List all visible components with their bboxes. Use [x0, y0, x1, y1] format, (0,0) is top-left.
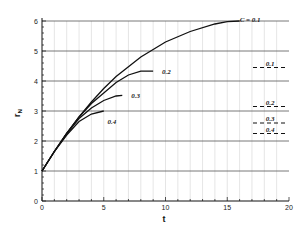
reference-label: 0.1	[266, 60, 275, 68]
series-label: 0.4	[107, 118, 116, 126]
x-tick-label: 15	[223, 204, 231, 211]
y-tick-label: 2	[34, 138, 38, 145]
y-tick-label: 6	[34, 18, 38, 25]
series-line	[42, 71, 153, 171]
reference-label: 0.2	[266, 99, 275, 107]
svg-text:rN: rN	[12, 109, 23, 117]
x-tick-label: 10	[162, 204, 170, 211]
y-axis-label: rN	[12, 109, 23, 117]
x-tick-label: 0	[40, 204, 44, 211]
series-line	[42, 95, 122, 171]
series-label: 0.2	[162, 68, 171, 76]
grid	[42, 21, 289, 201]
y-tick-label: 4	[34, 78, 38, 85]
x-axis-label: t	[163, 214, 166, 224]
series-label: C = 0.1	[240, 16, 261, 24]
reference-label: 0.3	[266, 115, 275, 123]
y-tick-label: 5	[34, 48, 38, 55]
reference-lines: 0.10.20.30.4	[253, 60, 286, 134]
line-chart: 012345605101520 0.10.20.30.4 C = 0.10.20…	[0, 0, 307, 229]
x-tick-label: 5	[102, 204, 106, 211]
y-tick-label: 0	[34, 198, 38, 205]
series-labels: C = 0.10.20.30.4	[107, 16, 260, 126]
y-tick-label: 3	[34, 108, 38, 115]
y-tick-label: 1	[34, 168, 38, 175]
series-label: 0.3	[131, 92, 140, 100]
reference-label: 0.4	[266, 126, 275, 134]
x-tick-label: 20	[285, 204, 293, 211]
axes: 012345605101520	[34, 18, 293, 212]
